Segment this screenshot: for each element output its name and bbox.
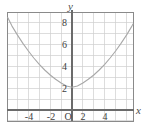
y-tick-label-8: 8: [59, 18, 70, 28]
x-axis-label: x: [136, 105, 141, 116]
parabola-graph-figure: x y O -4 -2 2 4 2 4 6 8: [0, 0, 150, 132]
y-tick-label-6: 6: [59, 40, 70, 50]
y-tick-label-2: 2: [59, 84, 70, 94]
y-tick-label-4: 4: [59, 62, 70, 72]
x-tick-label-2: 2: [77, 112, 89, 122]
origin-label: O: [62, 112, 74, 122]
x-tick-label-minus-2: -2: [44, 112, 58, 122]
x-tick-label-minus-4: -4: [22, 112, 36, 122]
y-axis-label: y: [68, 1, 73, 12]
x-tick-label-4: 4: [99, 112, 111, 122]
